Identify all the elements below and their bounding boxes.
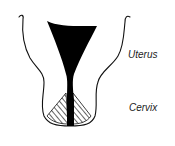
label-cervix: Cervix: [129, 103, 157, 113]
uterus-cervix-diagram: [0, 0, 175, 146]
label-uterus: Uterus: [128, 50, 157, 60]
cervix-hatch-left: [47, 93, 68, 124]
cervix-hatch-right: [72, 93, 91, 124]
